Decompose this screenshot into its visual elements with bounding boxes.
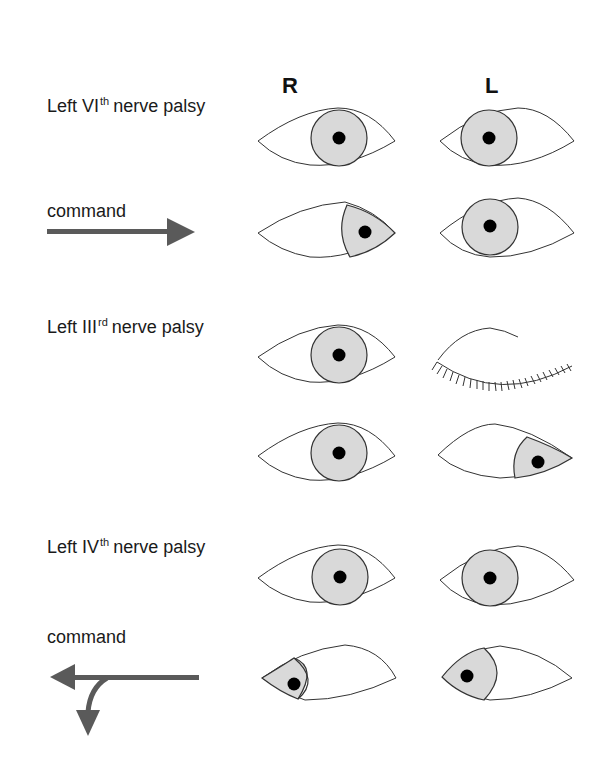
arrow-left-down-icon (50, 664, 199, 736)
eye-l-gaze-left (442, 646, 572, 700)
eye-r-primary-iii-2 (258, 423, 395, 481)
eye-l-ptosis (432, 328, 572, 391)
eye-l-primary-iv (440, 546, 574, 606)
eye-r-primary-iv (258, 545, 395, 605)
eye-r-primary-iii (258, 325, 395, 383)
eye-l-primary (440, 108, 574, 166)
arrow-right-icon (47, 218, 195, 246)
eye-l-gaze-right (440, 198, 574, 257)
eye-r-gaze-left (262, 645, 396, 700)
eye-l-down-out (438, 424, 572, 478)
eye-diagram (0, 0, 614, 772)
eye-r-gaze-right (258, 202, 395, 257)
eye-r-primary (258, 108, 395, 166)
